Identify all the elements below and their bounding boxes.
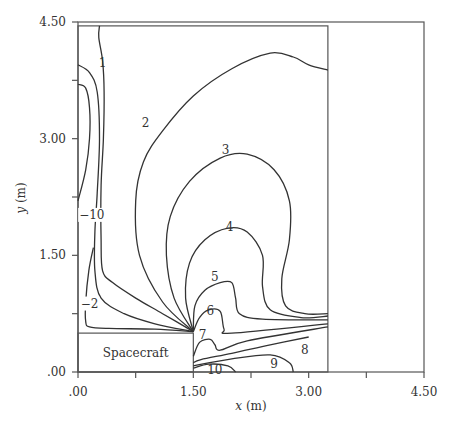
contour-label: 9 [270, 357, 278, 371]
x-axis-unit: (m) [246, 399, 267, 413]
contour-line-2 [135, 53, 328, 332]
y-axis-unit: (m) [14, 182, 28, 203]
contour-line-3 [166, 153, 328, 331]
contour-line-1 [99, 26, 194, 332]
contour-label: −10 [79, 208, 104, 222]
contour-label: 8 [301, 343, 309, 357]
y-tick-label: 3.00 [39, 132, 66, 146]
spacecraft-label: Spacecraft [103, 346, 169, 360]
y-tick-label: 1.50 [39, 248, 66, 262]
y-tick-label: .00 [47, 365, 66, 379]
contour-label: 5 [211, 270, 219, 284]
x-axis-var: x [235, 399, 242, 413]
contour-label: 4 [226, 220, 234, 234]
contour-lines [78, 26, 328, 372]
y-axis-label: y (m) [14, 182, 28, 214]
contour-label: 6 [206, 304, 214, 318]
contour-label: −2 [81, 297, 99, 311]
contour-label: 10 [207, 363, 222, 377]
contour-label: 2 [142, 116, 150, 130]
contour-line--20 [78, 84, 90, 201]
contour-plot: Spacecraft .001.503.004.50.001.503.004.5… [0, 0, 450, 435]
plot-frame [78, 22, 424, 372]
contour-label: 1 [99, 56, 107, 70]
contour-line-8 [193, 337, 308, 363]
contour-label: 3 [222, 143, 230, 157]
x-tick-label: 3.00 [295, 385, 322, 399]
x-tick-label: 4.50 [411, 385, 438, 399]
x-tick-label: 1.50 [180, 385, 207, 399]
contour-label: 7 [199, 328, 207, 342]
x-tick-label: .00 [68, 385, 87, 399]
x-axis-label: x (m) [235, 399, 266, 413]
y-axis-var: y [14, 207, 28, 215]
y-tick-label: 4.50 [39, 15, 66, 29]
